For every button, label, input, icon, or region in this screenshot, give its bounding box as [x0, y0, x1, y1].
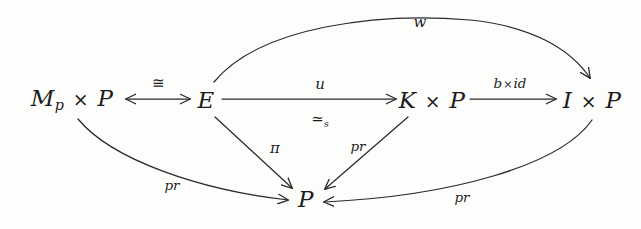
node-e: E [197, 89, 214, 112]
edge-pr-mid-line [325, 117, 408, 189]
edge-label-w: w [414, 15, 427, 30]
edge-label-pi: π [270, 141, 280, 156]
commutative-diagram: Mp × P E K × P I × P P ≅ u ≃s b×id w pr … [0, 0, 641, 229]
edge-label-iso: ≅ [152, 76, 165, 91]
edge-label-u: u [315, 77, 325, 92]
node-mp-times-p: Mp × P [31, 87, 113, 112]
node-i-times-p: I × P [563, 89, 622, 112]
edge-label-pr-right: pr [454, 191, 469, 205]
node-k-times-p: K × P [399, 89, 466, 112]
edge-pr-left-curve [78, 119, 288, 200]
edge-label-pr-left: pr [164, 179, 179, 193]
edge-label-b-times-id: b×id [494, 77, 527, 91]
edge-w-curve [214, 18, 590, 82]
node-p: P [298, 188, 314, 211]
edge-label-pr-mid: pr [350, 140, 365, 154]
edge-label-simeq-s: ≃s [311, 112, 328, 128]
edge-pi-line [215, 117, 292, 188]
